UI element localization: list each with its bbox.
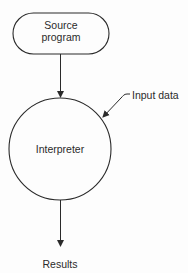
source-program-label-line2: program bbox=[13, 31, 109, 43]
arrow-input-to-interpreter bbox=[103, 94, 130, 117]
input-data-label: Input data bbox=[132, 89, 179, 101]
source-program-label: Source program bbox=[13, 19, 109, 43]
interpreter-diagram: Source program Interpreter Input data Re… bbox=[0, 0, 188, 273]
interpreter-label: Interpreter bbox=[10, 143, 110, 155]
source-program-label-line1: Source bbox=[13, 19, 109, 31]
results-label: Results bbox=[32, 258, 88, 270]
